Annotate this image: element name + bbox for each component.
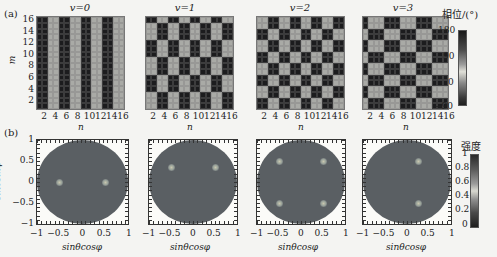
x-tick: 0.5	[207, 228, 221, 238]
beam-spot	[56, 179, 63, 186]
x-tick: 16	[337, 111, 348, 121]
x-tick: −0.5	[159, 228, 181, 238]
x-tick: 12	[204, 111, 215, 121]
y-tick: 1	[20, 134, 34, 144]
beam-spot	[320, 158, 327, 165]
x-tick: 16	[443, 111, 454, 121]
axis-tick-marks	[342, 140, 345, 224]
beam-spot	[320, 200, 327, 207]
colorbar-tick: 90	[443, 51, 454, 61]
beam-spot	[102, 179, 109, 186]
grid-cell	[119, 103, 124, 109]
axis-tick-marks	[37, 140, 40, 224]
x-tick: 1	[235, 228, 241, 238]
x-tick: 0	[298, 228, 304, 238]
intensity-disk	[363, 140, 451, 224]
x-tick: 14	[326, 111, 337, 121]
x-tick: 4	[272, 111, 278, 121]
axis-tick-marks	[37, 221, 128, 224]
x-tick: 12	[315, 111, 326, 121]
x-tick: 4	[52, 111, 58, 121]
axis-tick-marks	[448, 140, 451, 224]
panel-b-label: (b)	[4, 127, 18, 138]
phase-grid-v1	[145, 16, 234, 110]
y-tick: 10	[20, 49, 34, 59]
subplot-title: v=3	[358, 2, 448, 13]
y-tick: 16	[20, 14, 34, 24]
x-tick: −1	[142, 228, 155, 238]
y-tick: 6	[20, 72, 34, 82]
y-tick: 8	[20, 60, 34, 70]
x-tick: 12	[421, 111, 432, 121]
x-tick: −1	[356, 228, 369, 238]
colorbar-tick: 0.2	[455, 204, 469, 214]
beam-spot	[276, 200, 283, 207]
beam-spot	[212, 164, 219, 171]
grid-cell	[339, 103, 344, 109]
subplot-title: v=0	[35, 2, 125, 13]
x-tick: −0.5	[373, 228, 395, 238]
x-axis-label: sinθcosφ	[386, 242, 426, 252]
x-axis-label: sinθcosφ	[170, 242, 210, 252]
y-axis-label-m: m	[7, 56, 17, 65]
colorbar-tick: 0.6	[455, 176, 469, 186]
x-axis-label-n: n	[78, 122, 84, 132]
x-tick: 10	[304, 111, 315, 121]
y-tick: 14	[20, 26, 34, 36]
y-tick: −1	[16, 218, 34, 228]
x-tick: 2	[150, 111, 156, 121]
x-tick: 8	[295, 111, 301, 121]
x-tick: 16	[226, 111, 237, 121]
x-tick: 0	[190, 228, 196, 238]
axis-tick-marks	[257, 140, 345, 143]
x-tick: 2	[41, 111, 47, 121]
y-tick: 12	[20, 37, 34, 47]
x-tick: −1	[250, 228, 263, 238]
x-axis-label-n: n	[187, 122, 193, 132]
phase-grid-v2	[256, 16, 345, 110]
x-axis-label-n: n	[298, 122, 304, 132]
x-tick: 6	[64, 111, 70, 121]
x-tick: 6	[173, 111, 179, 121]
far-field-plot-v1	[148, 139, 238, 225]
x-axis-label: sinθcosφ	[278, 242, 318, 252]
colorbar-tick: 180	[438, 25, 455, 35]
x-axis-label: sinθcosφ	[62, 242, 102, 252]
x-tick: 4	[161, 111, 167, 121]
axis-tick-marks	[257, 221, 345, 224]
intensity-disk	[257, 140, 345, 224]
phase-grid-v0	[36, 16, 125, 110]
x-tick: 8	[401, 111, 407, 121]
axis-tick-marks	[37, 140, 128, 143]
beam-spot	[276, 158, 283, 165]
intensity-disk	[149, 140, 237, 224]
x-tick: 1	[343, 228, 349, 238]
x-tick: 8	[75, 111, 81, 121]
far-field-plot-v2	[256, 139, 346, 225]
phase-colorbar	[458, 30, 467, 106]
far-field-plot-v3	[362, 139, 452, 225]
y-tick: 0	[20, 176, 34, 186]
x-tick: 10	[193, 111, 204, 121]
axis-tick-marks	[257, 140, 260, 224]
phase-grid-v3	[362, 16, 449, 110]
x-tick: 6	[390, 111, 396, 121]
x-tick: 12	[95, 111, 106, 121]
x-tick: 1	[126, 228, 132, 238]
beam-spot	[415, 200, 422, 207]
beam-spot	[168, 164, 175, 171]
x-tick: 0.5	[421, 228, 435, 238]
y-tick: −0.5	[8, 197, 34, 207]
x-tick: 10	[410, 111, 421, 121]
x-tick: −0.5	[267, 228, 289, 238]
x-tick: 6	[284, 111, 290, 121]
colorbar-tick: −90	[434, 101, 453, 111]
axis-tick-marks	[149, 221, 237, 224]
x-tick: 8	[184, 111, 190, 121]
x-tick: 0	[404, 228, 410, 238]
axis-tick-marks	[363, 221, 451, 224]
axis-tick-marks	[234, 140, 237, 224]
intensity-colorbar	[470, 154, 479, 228]
axis-tick-marks	[363, 140, 366, 224]
y-tick: 2	[20, 95, 34, 105]
